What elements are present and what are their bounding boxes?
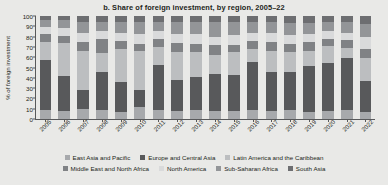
bar-segment [360, 81, 372, 112]
y-axis-label: % of foreign investment [3, 16, 13, 120]
bar-segment [171, 22, 183, 33]
bar-segment [96, 22, 108, 31]
x-tick-label-cell: 2017 [262, 122, 281, 148]
bar-column [111, 16, 130, 119]
plot-area: 0102030405060708090100 [35, 16, 375, 120]
stacked-bar [266, 16, 278, 119]
bar-segment [190, 22, 202, 33]
bar-segment [266, 42, 278, 51]
bar-segment [77, 51, 89, 90]
bar-segment [40, 20, 52, 27]
bar-segment [190, 52, 202, 77]
y-tick-label: 60 [26, 54, 33, 61]
bar-segment [77, 109, 89, 119]
bar-segment [228, 45, 240, 52]
bar-column [92, 16, 111, 119]
bar-column [281, 16, 300, 119]
stacked-bar [171, 16, 183, 119]
bar-segment [115, 33, 127, 41]
legend-label: Latin America and the Caribbean [233, 154, 323, 161]
bar-segment [247, 33, 259, 41]
bar-segment [96, 31, 108, 38]
bar-column [300, 16, 319, 119]
bar-segment [115, 112, 127, 119]
legend-item[interactable]: South Asia [288, 165, 326, 172]
bar-segment [190, 44, 202, 52]
stacked-bar [115, 16, 127, 119]
bar-segment [134, 107, 146, 119]
x-tick-label-cell: 2005 [35, 122, 54, 148]
bar-segment [58, 20, 70, 28]
bar-segment [341, 48, 353, 58]
y-tick-mark [33, 88, 36, 89]
bar-column [55, 16, 74, 119]
bar-column [74, 16, 93, 119]
bar-segment [247, 49, 259, 62]
legend-item[interactable]: East Asia and Pacific [65, 154, 131, 161]
bar-segment [96, 72, 108, 110]
stacked-bar [228, 16, 240, 119]
bar-segment [115, 49, 127, 82]
bar-column [36, 16, 55, 119]
bar-segment [209, 37, 221, 45]
bar-segment [77, 33, 89, 42]
bar-segment [134, 44, 146, 51]
bar-segment [209, 74, 221, 111]
x-tick-label-cell: 2021 [337, 122, 356, 148]
legend-item[interactable]: Latin America and the Caribbean [225, 154, 323, 161]
legend-label: South Asia [296, 165, 326, 172]
legend-swatch-icon [63, 166, 68, 171]
legend-label: Middle East and North Africa [71, 165, 149, 172]
bar-segment [171, 34, 183, 43]
bar-segment [228, 22, 240, 34]
y-tick-mark [33, 57, 36, 58]
y-tick-label: 30 [26, 85, 33, 92]
chart-legend: East Asia and PacificEurope and Central … [0, 152, 388, 174]
bar-segment [209, 22, 221, 36]
bar-segment [322, 63, 334, 110]
bar-segment [134, 51, 146, 90]
bar-column [337, 16, 356, 119]
bar-segment [58, 76, 70, 111]
y-tick-label: 70 [26, 43, 33, 50]
stacked-bar [341, 16, 353, 119]
bar-segment [341, 40, 353, 48]
stacked-bar [40, 16, 52, 119]
bar-segment [247, 22, 259, 32]
legend-item[interactable]: North America [159, 165, 206, 172]
y-tick-mark [33, 108, 36, 109]
bar-segment [134, 22, 146, 33]
legend-item[interactable]: Sub-Saharan Africa [216, 165, 278, 172]
bar-segment [190, 77, 202, 110]
y-tick-mark [33, 36, 36, 37]
legend-item[interactable]: Europe and Central Asia [140, 154, 215, 161]
bar-segment [284, 52, 296, 72]
bar-segment [341, 22, 353, 32]
y-tick-mark [33, 67, 36, 68]
legend-item[interactable]: Middle East and North Africa [63, 165, 149, 172]
legend-swatch-icon [140, 155, 145, 160]
y-tick-mark [33, 46, 36, 47]
x-tick-label-cell: 2014 [205, 122, 224, 148]
stacked-bar [77, 16, 89, 119]
y-tick-label: 90 [26, 23, 33, 30]
bar-segment [360, 37, 372, 49]
x-tick-label-cell: 2007 [73, 122, 92, 148]
chart-title: b. Share of foreign investment, by regio… [0, 3, 388, 12]
x-tick-label-cell: 2008 [92, 122, 111, 148]
bar-segment [303, 42, 315, 51]
stacked-bar [134, 16, 146, 119]
bar-segment [171, 80, 183, 111]
bar-segment [40, 110, 52, 119]
bar-segment [303, 16, 315, 23]
bar-segment [40, 60, 52, 109]
bar-segment [303, 51, 315, 66]
bar-segment [58, 111, 70, 119]
bar-segment [58, 36, 70, 43]
bar-segment [209, 45, 221, 55]
bar-segment [322, 39, 334, 46]
stacked-bar [153, 16, 165, 119]
figure-panel: b. Share of foreign investment, by regio… [0, 0, 388, 185]
stacked-bar [58, 16, 70, 119]
bar-column [149, 16, 168, 119]
